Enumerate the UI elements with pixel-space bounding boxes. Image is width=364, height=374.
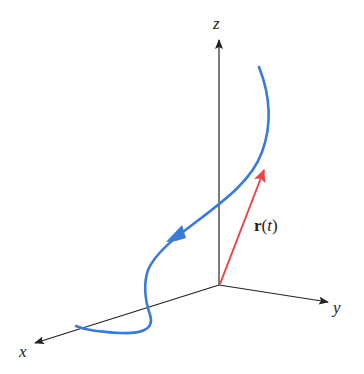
vector-label: r(t) [254, 216, 278, 236]
space-curve-diagram [0, 0, 364, 374]
y-axis-label: y [333, 298, 341, 318]
y-axis [219, 285, 328, 302]
direction-arrow-icon [166, 225, 186, 242]
z-axis-label: z [213, 14, 220, 34]
vector-label-r: r [254, 216, 262, 235]
space-curve [76, 67, 268, 333]
x-axis-label: x [19, 342, 27, 362]
